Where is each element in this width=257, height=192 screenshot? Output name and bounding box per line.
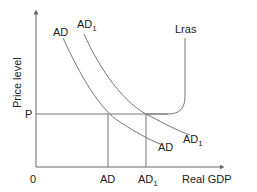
ad1-curve [84, 34, 190, 135]
y-axis-label: Price level [11, 57, 23, 108]
price-label: P [25, 108, 32, 120]
ad-curve-label-end: AD [158, 141, 173, 153]
origin-label: 0 [30, 173, 36, 185]
ad-tick-label: AD [100, 173, 115, 185]
lras-curve [146, 38, 185, 114]
ad-lras-diagram: Price level Real GDP 0 P AD AD1 Lras AD1… [0, 0, 257, 192]
ad1-curve-label-end: AD1 [183, 133, 203, 148]
ad1-tick-label: AD1 [138, 173, 158, 188]
x-axis-label: Real GDP [182, 173, 232, 185]
ad1-curve-label-top: AD1 [77, 18, 97, 33]
ad-curve-label-top: AD [53, 26, 68, 38]
lras-label: Lras [175, 23, 197, 35]
ad-curve [63, 38, 160, 144]
